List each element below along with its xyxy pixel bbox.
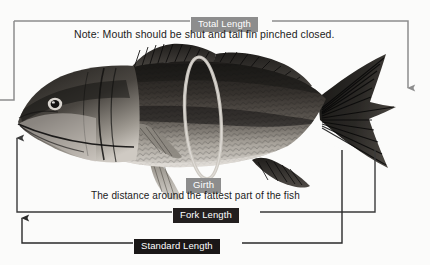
label-fork-length-text: Fork Length bbox=[173, 208, 239, 223]
label-fork-length: Fork Length bbox=[173, 205, 239, 223]
fish-measurement-diagram: Total Length Note: Mouth should be shut … bbox=[0, 0, 430, 265]
label-standard-length-text: Standard Length bbox=[134, 239, 220, 254]
mouth-and-tail-note: Note: Mouth should be shut and tail fin … bbox=[74, 29, 335, 40]
label-standard-length: Standard Length bbox=[134, 236, 220, 254]
girth-description: The distance around the fattest part of … bbox=[91, 191, 300, 201]
